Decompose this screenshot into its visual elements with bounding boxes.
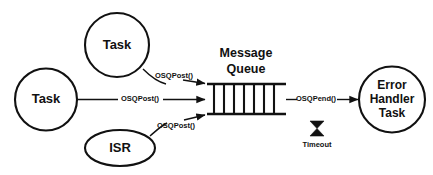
edge-label-post-top: OSQPost()	[155, 71, 193, 80]
node-error-handler-label-line2: Handler	[370, 92, 415, 106]
edge-label-post-bottom: OSQPost()	[157, 121, 195, 130]
hourglass-icon	[310, 121, 324, 136]
node-isr-label: ISR	[109, 140, 131, 155]
arrow-isr-to-queue	[184, 115, 205, 120]
message-queue	[207, 84, 286, 114]
edge-label-post-middle: OSQPost()	[121, 94, 159, 103]
node-error-handler-label-line1: Error	[377, 78, 407, 92]
timeout-label: Timeout	[302, 140, 332, 149]
node-task-left-label: Task	[32, 91, 61, 106]
queue-title-line1: Message	[220, 46, 273, 60]
diagram-canvas: Message Queue Task Task ISR Error Handle…	[0, 0, 433, 175]
queue-slot-dividers	[214, 84, 274, 114]
node-task-top-label: Task	[103, 37, 132, 52]
edge-label-pend: OSQPend()	[296, 94, 337, 103]
node-error-handler-label-line3: Task	[379, 106, 406, 120]
queue-title-line2: Queue	[227, 62, 266, 76]
message-queue-diagram: Message Queue Task Task ISR Error Handle…	[0, 0, 433, 175]
arrow-task-top-to-queue	[183, 80, 205, 84]
